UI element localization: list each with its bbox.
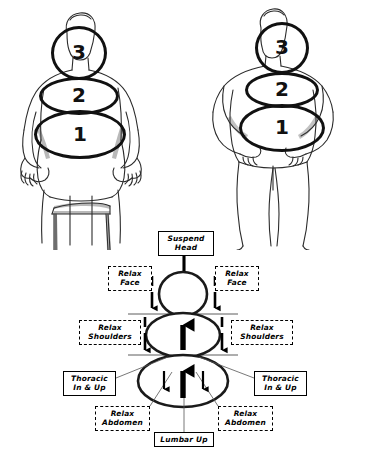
zone-ring-3-seated: 3 xyxy=(51,26,107,80)
label-thoracic-left-line1: Thoracic xyxy=(67,374,112,383)
zone-number-1-seated: 1 xyxy=(73,124,87,144)
label-relax-face-left-line2: Face xyxy=(112,278,148,287)
zone-ring-3-standing: 3 xyxy=(255,22,309,74)
zone-ring-1-standing: 1 xyxy=(239,104,325,152)
label-relax-shoulders-right-line2: Shoulders xyxy=(235,332,289,341)
zone-number-3-standing: 3 xyxy=(275,37,289,57)
label-relax-shoulders-left-line2: Shoulders xyxy=(83,332,137,341)
label-suspend-head-line1: Suspend xyxy=(162,234,210,243)
label-relax-face-left-line1: Relax xyxy=(112,269,148,278)
label-thoracic-left-line2: In & Up xyxy=(67,383,112,392)
label-relax-face-right-line1: Relax xyxy=(219,269,255,278)
zone-number-3-seated: 3 xyxy=(72,42,86,62)
zone-ring-2-standing: 2 xyxy=(245,72,319,108)
label-lumbar-up: Lumbar Up xyxy=(154,432,214,447)
label-lumbar-up-line1: Lumbar Up xyxy=(158,435,210,444)
label-relax-abdomen-right: Relax Abdomen xyxy=(218,406,273,431)
zone-number-1-standing: 1 xyxy=(275,117,289,137)
diagram-canvas: 3 2 1 3 2 1 xyxy=(0,0,365,476)
label-relax-abdomen-left: Relax Abdomen xyxy=(95,406,150,431)
zone-ring-1-seated: 1 xyxy=(34,110,126,159)
label-relax-shoulders-right: Relax Shoulders xyxy=(231,320,293,345)
label-relax-abdomen-left-line1: Relax xyxy=(99,409,146,418)
label-relax-shoulders-right-line1: Relax xyxy=(235,323,289,332)
label-thoracic-right-line2: In & Up xyxy=(258,383,303,392)
label-relax-face-left: Relax Face xyxy=(108,266,152,291)
label-relax-abdomen-right-line2: Abdomen xyxy=(222,418,269,427)
label-relax-shoulders-left-line1: Relax xyxy=(83,323,137,332)
label-relax-abdomen-left-line2: Abdomen xyxy=(99,418,146,427)
label-relax-face-right: Relax Face xyxy=(215,266,259,291)
label-relax-shoulders-left: Relax Shoulders xyxy=(79,320,141,345)
label-thoracic-in-up-right: Thoracic In & Up xyxy=(254,371,307,396)
label-relax-abdomen-right-line1: Relax xyxy=(222,409,269,418)
label-thoracic-right-line1: Thoracic xyxy=(258,374,303,383)
zone-number-2-seated: 2 xyxy=(72,85,86,105)
label-relax-face-right-line2: Face xyxy=(219,278,255,287)
zone-number-2-standing: 2 xyxy=(275,79,289,99)
posture-flow-diagram: Suspend Head Relax Face Relax Face Relax… xyxy=(0,226,365,476)
label-suspend-head: Suspend Head xyxy=(158,231,214,256)
label-suspend-head-line2: Head xyxy=(162,243,210,252)
label-thoracic-in-up-left: Thoracic In & Up xyxy=(63,371,116,396)
